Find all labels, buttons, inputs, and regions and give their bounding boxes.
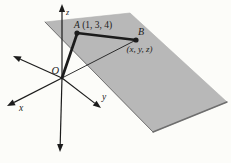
axis-x-label: x — [18, 103, 24, 113]
point-B-label: B — [138, 26, 144, 37]
point-B-dot — [133, 37, 138, 42]
figure-canvas: zxyA (1, 3, 4)B(x, y, z)O — [0, 0, 231, 163]
axis-y-label: y — [101, 92, 107, 102]
plane-vector-diagram: zxyA (1, 3, 4)B(x, y, z)O — [0, 0, 231, 163]
origin-label: O — [52, 65, 60, 76]
point-B-coords: (x, y, z) — [127, 44, 153, 54]
point-A-coords: (1, 3, 4) — [80, 20, 112, 31]
point-A-label: A (1, 3, 4) — [73, 20, 112, 31]
point-A-dot — [74, 30, 79, 35]
